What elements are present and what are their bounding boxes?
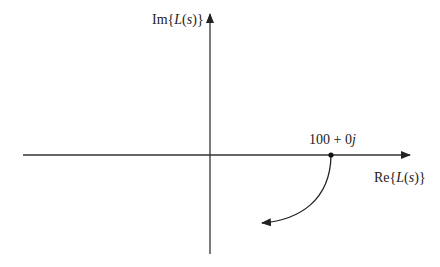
imaginary-axis-label: Im{L(s)} <box>152 12 204 28</box>
nyquist-diagram <box>0 0 440 267</box>
point-marker <box>328 152 333 157</box>
nyquist-curve <box>262 156 331 223</box>
real-axis-label: Re{L(s)} <box>374 170 426 186</box>
point-label: 100 + 0j <box>309 132 356 148</box>
